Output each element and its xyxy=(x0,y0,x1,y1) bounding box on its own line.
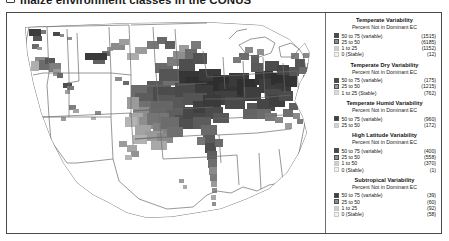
legend-subtitle: Percent Not in Dominant EC xyxy=(333,24,436,31)
legend-title: Temperate Dry Variability xyxy=(333,62,436,69)
legend-panel: Temperate Variability Percent Not in Dom… xyxy=(325,13,441,233)
legend-entry[interactable]: 25 to 50 (172) xyxy=(334,122,436,128)
legend-swatch xyxy=(334,52,339,57)
legend-block-temperate-dry-variability: Temperate Dry Variability Percent Not in… xyxy=(333,62,436,96)
legend-block-high-latitude-variability: High Latitude Variability Percent Not in… xyxy=(333,132,436,173)
legend-swatch xyxy=(334,148,339,153)
legend-entry-count: (12) xyxy=(423,51,436,57)
legend-swatch xyxy=(334,199,339,204)
map-pane[interactable] xyxy=(7,13,325,233)
legend-subtitle: Percent Not in Dominant EC xyxy=(333,107,436,114)
legend-entry-count: (762) xyxy=(420,90,436,96)
figure-root: maize environment classes in the CONUS xyxy=(0,0,449,241)
legend-swatch xyxy=(334,212,339,217)
legend-entry[interactable]: 0 (Stable) (1) xyxy=(334,167,436,173)
legend-entry-count: (172) xyxy=(420,122,436,128)
legend-entry-count: (58) xyxy=(423,211,436,217)
legend-entry-count: (1) xyxy=(426,167,436,173)
caption-text: maize environment classes in the CONUS xyxy=(20,0,251,6)
legend-subtitle: Percent Not in Dominant EC xyxy=(333,69,436,76)
legend-entry-label: 1 to 25 (Stable) xyxy=(342,90,377,96)
legend-title: High Latitude Variability xyxy=(333,132,436,139)
legend-swatch xyxy=(334,123,339,128)
legend-swatch xyxy=(334,193,339,198)
legend-entry[interactable]: 0 (Stable) (12) xyxy=(334,51,436,57)
caption-strip: maize environment classes in the CONUS xyxy=(0,0,449,11)
legend-entry-label: 25 to 50 xyxy=(342,122,360,128)
legend-swatch xyxy=(334,39,339,44)
legend-title: Temperate Humid Variability xyxy=(333,100,436,107)
legend-swatch xyxy=(334,46,339,51)
legend-entry[interactable]: 0 (Stable) (58) xyxy=(334,211,436,217)
legend-swatch xyxy=(334,167,339,172)
legend-swatch xyxy=(334,155,339,160)
conus-county-choropleth[interactable] xyxy=(7,13,325,233)
legend-title: Temperate Variability xyxy=(333,17,436,24)
legend-swatch xyxy=(334,206,339,211)
legend-entry-label: 0 (Stable) xyxy=(342,211,364,217)
caption-line: maize environment classes in the CONUS xyxy=(6,0,251,6)
legend-block-subtropical-variability: Subtropical Variability Percent Not in D… xyxy=(333,177,436,218)
legend-swatch xyxy=(334,33,339,38)
legend-block-temperate-variability: Temperate Variability Percent Not in Dom… xyxy=(333,17,436,58)
legend-swatch xyxy=(334,116,339,121)
square-bullet-icon xyxy=(6,0,15,3)
map-figure: Temperate Variability Percent Not in Dom… xyxy=(6,12,442,234)
legend-block-temperate-humid-variability: Temperate Humid Variability Percent Not … xyxy=(333,100,436,128)
legend-swatch xyxy=(334,84,339,89)
legend-entry-label: 0 (Stable) xyxy=(342,167,364,173)
legend-entry[interactable]: 1 to 25 (Stable) (762) xyxy=(334,90,436,96)
legend-swatch xyxy=(334,90,339,95)
legend-swatch xyxy=(334,78,339,83)
legend-swatch xyxy=(334,161,339,166)
legend-subtitle: Percent Not in Dominant EC xyxy=(333,139,436,146)
legend-entry-label: 0 (Stable) xyxy=(342,51,364,57)
legend-subtitle: Percent Not in Dominant EC xyxy=(333,184,436,191)
legend-title: Subtropical Variability xyxy=(333,177,436,184)
